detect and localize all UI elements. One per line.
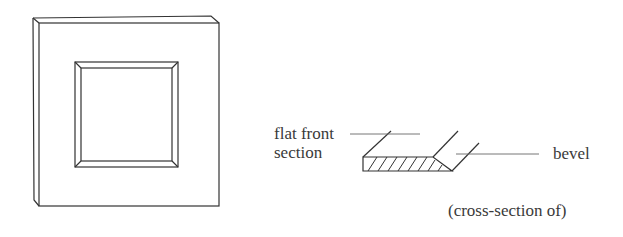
bevel-label: bevel (553, 144, 590, 164)
frame-drawing (33, 16, 219, 206)
caption: (cross-section of) (448, 201, 567, 221)
leader-lines (350, 134, 539, 154)
flat-front-label: flat front (274, 124, 334, 144)
section-label: section (274, 143, 322, 163)
cross-section-drawing (363, 131, 479, 171)
